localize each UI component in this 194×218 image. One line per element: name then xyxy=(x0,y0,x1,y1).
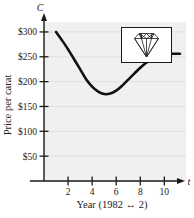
y-axis-variable-label: C xyxy=(37,2,44,13)
x-axis-caption: Year (1982 ↔ 2) xyxy=(77,199,148,211)
y-tick-label: $250 xyxy=(18,52,37,62)
x-tick-label: 4 xyxy=(90,187,95,197)
y-tick-label: $200 xyxy=(18,77,37,87)
x-tick-label: 10 xyxy=(160,187,170,197)
y-tick-label: $100 xyxy=(18,127,37,137)
x-axis-variable-label: t xyxy=(188,176,191,187)
y-axis-arrowhead xyxy=(41,13,47,21)
y-tick-label: $150 xyxy=(18,102,37,112)
x-tick-label: 6 xyxy=(114,187,119,197)
y-tick-label: $50 xyxy=(23,152,38,162)
y-axis-title: Price per carat xyxy=(2,75,13,136)
y-tick-label: $300 xyxy=(18,27,37,37)
x-tick-label: 2 xyxy=(66,187,71,197)
figure-container: $50$100$150$200$250$300 246810 C t Price… xyxy=(0,0,194,218)
diamond-inset xyxy=(122,28,172,63)
x-tick-label: 8 xyxy=(138,187,143,197)
price-per-carat-chart: $50$100$150$200$250$300 246810 C t Price… xyxy=(0,0,194,218)
